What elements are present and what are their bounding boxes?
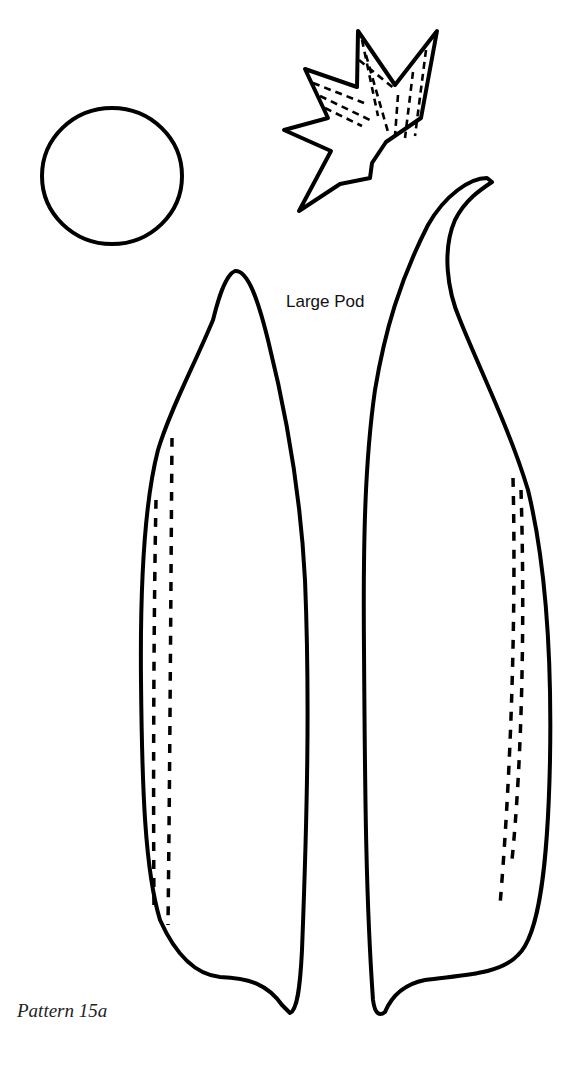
right-pod-piece — [364, 178, 551, 1014]
large-pod-label: Large Pod — [286, 292, 364, 312]
pattern-number-label: Pattern 15a — [17, 1000, 107, 1022]
calyx-piece — [284, 31, 437, 211]
pattern-sheet — [0, 0, 574, 1077]
circle-piece — [42, 108, 182, 244]
left-pod-piece — [141, 271, 308, 1013]
